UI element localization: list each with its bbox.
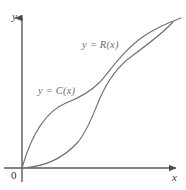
curve-label-cost: y = C(x): [38, 86, 75, 97]
y-axis-label: y: [12, 11, 17, 22]
x-axis-label: x: [172, 172, 177, 183]
plot-canvas: [0, 0, 186, 190]
graph-figure: y x 0 y = R(x) y = C(x): [0, 0, 186, 190]
origin-label: 0: [11, 170, 17, 181]
curve-label-revenue: y = R(x): [82, 40, 119, 51]
